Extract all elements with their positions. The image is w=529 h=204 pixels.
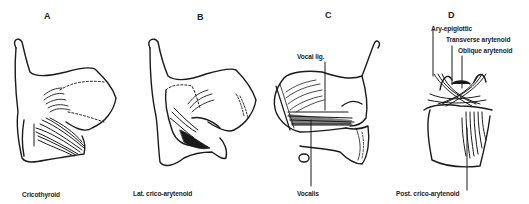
label-post-crico-arytenoid: Post. crico-arytenoid xyxy=(396,189,460,198)
label-ary-epiglottic: Ary-epiglottic xyxy=(431,24,472,33)
label-transverse-arytenoid: Transverse arytenoid xyxy=(446,35,510,44)
label-vocalis: Vocalis xyxy=(297,189,319,198)
panel-a-drawing xyxy=(15,39,116,162)
label-cricothyroid: Cricothyroid xyxy=(22,190,60,199)
panel-c-drawing xyxy=(274,41,379,186)
label-lat-crico-arytenoid: Lat. crico-arytenoid xyxy=(133,189,192,198)
larynx-muscle-diagram: A B C D xyxy=(0,0,529,204)
label-oblique-arytenoid: Oblique arytenoid xyxy=(458,46,512,55)
panel-b-drawing xyxy=(149,39,256,165)
label-vocal-lig: Vocal lig. xyxy=(297,52,324,61)
